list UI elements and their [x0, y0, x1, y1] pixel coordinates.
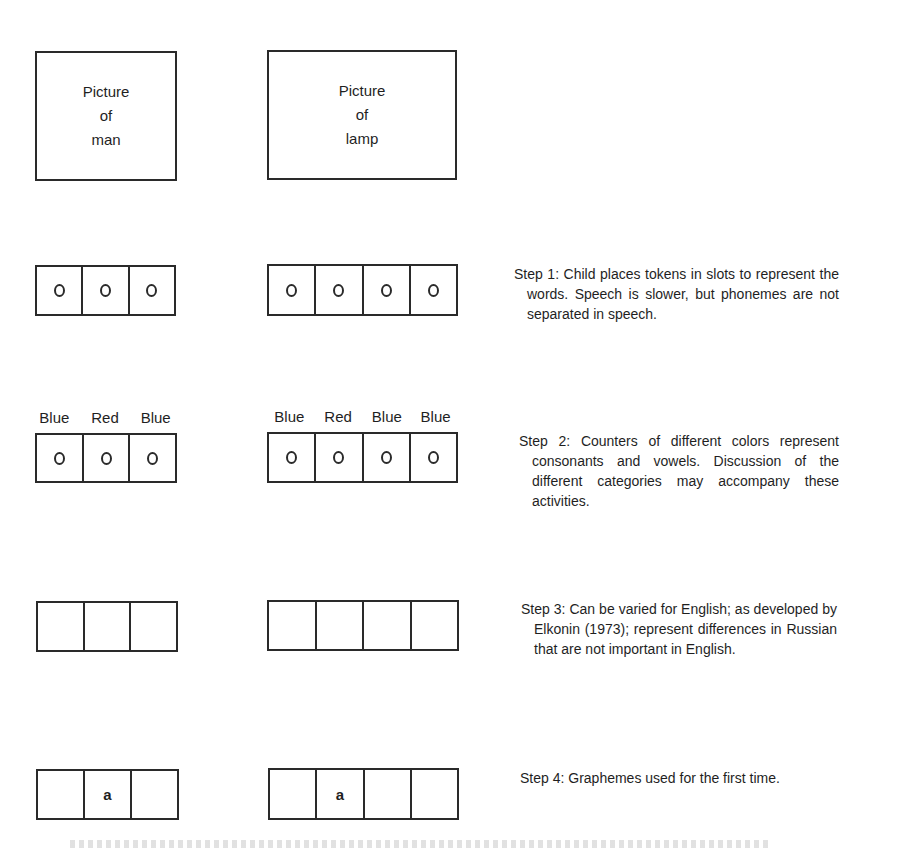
token-icon [147, 452, 158, 465]
slot [269, 434, 314, 481]
step-text: Step 3: Can be varied for English; as de… [521, 599, 837, 659]
token-icon [54, 284, 65, 297]
cropped-caption-line [70, 840, 770, 848]
token-icon [428, 284, 439, 297]
slot [410, 602, 458, 649]
slot [270, 770, 315, 818]
picture-label: Picture [339, 79, 386, 103]
picture-label: of [100, 104, 113, 128]
color-label-red: Red [80, 409, 131, 426]
slot [315, 602, 363, 649]
token-icon [381, 451, 392, 464]
man-slots-step4: a [36, 769, 179, 820]
color-label-blue: Blue [29, 409, 80, 426]
slot [409, 266, 456, 314]
slot [410, 770, 457, 818]
slot: a [83, 771, 130, 818]
step-text: Step 1: Child places tokens in slots to … [514, 264, 839, 324]
man-slots-step1 [35, 265, 176, 316]
step-text: Step 4: Graphemes used for the first tim… [520, 768, 838, 788]
slot [38, 771, 83, 818]
color-label-blue: Blue [411, 408, 460, 425]
man-slots-step3 [36, 601, 178, 652]
color-label-blue: Blue [265, 408, 314, 425]
step-2-description: Step 2: Counters of different colors rep… [519, 431, 839, 511]
step-1-description: Step 1: Child places tokens in slots to … [514, 264, 839, 324]
slot [37, 267, 81, 314]
token-icon [146, 284, 157, 297]
slot [129, 603, 176, 650]
token-icon [333, 284, 344, 297]
grapheme-a: a [103, 786, 111, 803]
color-label-blue: Blue [130, 409, 181, 426]
man-color-labels: Blue Red Blue [29, 409, 181, 426]
color-label-blue: Blue [363, 408, 412, 425]
slot [269, 602, 315, 649]
token-icon [286, 451, 297, 464]
slot [409, 434, 456, 481]
picture-of-lamp-box: Picture of lamp [267, 50, 457, 180]
picture-of-man-box: Picture of man [35, 51, 177, 181]
man-slots-step2 [35, 433, 177, 483]
step-4-description: Step 4: Graphemes used for the first tim… [520, 768, 838, 788]
lamp-color-labels: Blue Red Blue Blue [265, 408, 460, 425]
lamp-slots-step2 [267, 432, 458, 483]
lamp-slots-step4: a [268, 768, 459, 820]
picture-label: of [356, 103, 369, 127]
token-icon [333, 451, 344, 464]
token-icon [54, 452, 65, 465]
slot [83, 603, 130, 650]
slot [81, 267, 127, 314]
slot [314, 434, 361, 481]
token-icon [286, 284, 297, 297]
step-text: Step 2: Counters of different colors rep… [519, 431, 839, 511]
slot [362, 434, 409, 481]
slot: a [315, 770, 362, 818]
token-icon [428, 451, 439, 464]
lamp-slots-step3 [267, 600, 459, 651]
slot [269, 266, 314, 314]
slot [363, 770, 410, 818]
slot [130, 771, 177, 818]
slot [37, 435, 82, 481]
token-icon [101, 452, 112, 465]
slot [314, 266, 361, 314]
token-icon [381, 284, 392, 297]
slot [38, 603, 83, 650]
picture-label: Picture [83, 80, 130, 104]
picture-label: man [91, 128, 120, 152]
slot [82, 435, 129, 481]
token-icon [100, 284, 111, 297]
slot [362, 266, 409, 314]
slot [362, 602, 410, 649]
slot [128, 435, 175, 481]
step-3-description: Step 3: Can be varied for English; as de… [521, 599, 837, 659]
slot [128, 267, 174, 314]
picture-label: lamp [346, 127, 379, 151]
color-label-red: Red [314, 408, 363, 425]
lamp-slots-step1 [267, 264, 458, 316]
grapheme-a: a [336, 786, 344, 803]
